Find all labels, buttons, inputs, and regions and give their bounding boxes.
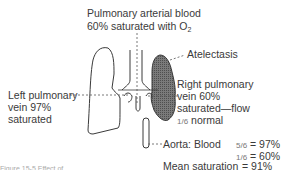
fraction-one-sixth: 1/6 xyxy=(177,117,188,126)
o2-subscript: 2 xyxy=(187,26,191,33)
aorta-row-1-value: = 97% xyxy=(250,138,280,150)
trachea xyxy=(122,50,150,90)
right-vein-normal-text: normal xyxy=(188,114,223,126)
label-right-vein-2: vein 60% xyxy=(177,90,220,102)
pulmonary-vessels xyxy=(124,93,152,111)
label-left-vein-1: Left pulmonary xyxy=(8,89,77,101)
label-right-vein-4: 1/6 normal xyxy=(177,114,223,128)
label-pulmonary-arterial-2: 60% saturated with O2 xyxy=(87,20,191,36)
aorta xyxy=(143,118,149,148)
left-lung xyxy=(88,48,120,134)
atelectasis-lung xyxy=(151,55,175,121)
label-mean-saturation: Mean saturation xyxy=(163,160,238,170)
fraction-five-sixths: 5/6 xyxy=(236,141,247,150)
label-right-vein-3: saturated—flow xyxy=(177,102,250,114)
label-pulmonary-arterial-1: Pulmonary arterial blood xyxy=(87,7,201,19)
leader-atelectasis xyxy=(170,55,185,60)
mean-saturation-value: = 91% xyxy=(242,160,272,170)
label-left-vein-3: saturated xyxy=(8,113,52,125)
label-right-vein-1: Right pulmonary xyxy=(177,78,253,90)
label-atelectasis: Atelectasis xyxy=(187,48,238,60)
figure-caption: Figure 15-5 Effect of xyxy=(0,165,63,170)
label-aorta: Aorta: Blood xyxy=(163,138,221,150)
pulmonary-arterial-text: 60% saturated with O xyxy=(87,20,187,32)
label-left-vein-2: vein 97% xyxy=(8,101,51,113)
